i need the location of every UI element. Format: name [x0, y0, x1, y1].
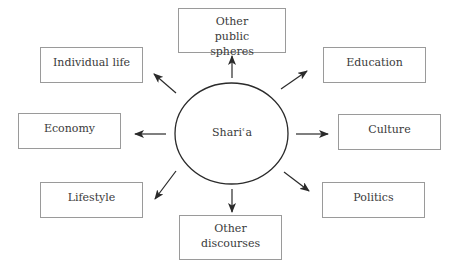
- node-label: Other discourses: [196, 216, 266, 251]
- node-label: Other public spheres: [197, 9, 267, 59]
- node-other-discourses: Other discourses: [179, 215, 282, 260]
- node-label: Culture: [368, 115, 410, 137]
- arrow-to-individual-life: [154, 74, 176, 93]
- node-culture: Culture: [338, 114, 441, 150]
- node-education: Education: [323, 47, 426, 83]
- arrow-to-lifestyle: [155, 171, 176, 199]
- arrow-to-politics: [284, 172, 309, 191]
- node-label: Lifestyle: [68, 183, 116, 205]
- node-economy: Economy: [18, 113, 121, 149]
- arrow-to-education: [281, 71, 307, 89]
- node-label: Individual life: [53, 48, 130, 70]
- node-other-public-spheres: Other public spheres: [178, 8, 286, 53]
- node-label: Education: [346, 48, 403, 70]
- node-politics: Politics: [322, 182, 425, 218]
- node-label: Politics: [353, 183, 393, 205]
- center-label: Shariʿa: [176, 126, 288, 139]
- node-label: Economy: [44, 114, 95, 136]
- node-individual-life: Individual life: [40, 47, 143, 83]
- node-lifestyle: Lifestyle: [40, 182, 143, 218]
